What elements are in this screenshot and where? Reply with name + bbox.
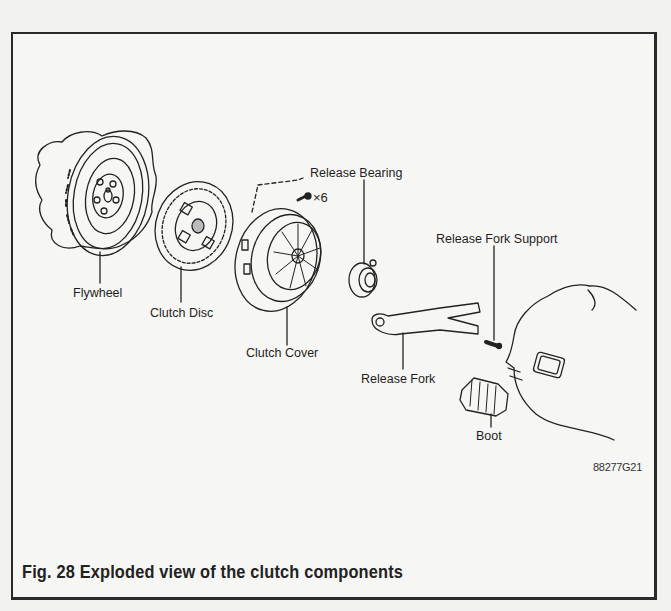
label-release-bearing: Release Bearing xyxy=(310,166,402,180)
label-bolt-quantity: ×6 xyxy=(313,190,328,205)
release-fork-illustration xyxy=(372,303,480,369)
figure-caption: Fig. 28 Exploded view of the clutch comp… xyxy=(22,561,403,583)
label-clutch-disc: Clutch Disc xyxy=(150,306,213,320)
clutch-exploded-illustration xyxy=(0,0,671,611)
clutch-disc-illustration xyxy=(143,171,245,302)
release-fork-support-illustration xyxy=(486,246,502,349)
label-boot: Boot xyxy=(476,429,502,443)
label-clutch-cover: Clutch Cover xyxy=(246,346,318,360)
label-release-fork: Release Fork xyxy=(361,372,435,386)
flywheel-illustration xyxy=(36,130,158,283)
release-bearing-illustration xyxy=(349,180,377,297)
label-flywheel: Flywheel xyxy=(73,286,122,300)
label-release-fork-support: Release Fork Support xyxy=(436,232,558,246)
figure-code: 88277G21 xyxy=(593,461,642,473)
boot-illustration xyxy=(460,378,508,427)
transaxle-housing-illustration xyxy=(506,285,636,440)
